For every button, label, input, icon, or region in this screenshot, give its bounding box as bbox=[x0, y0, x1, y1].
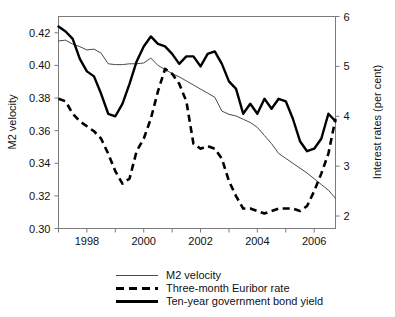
y-tick-label: 0.32 bbox=[29, 190, 50, 202]
legend-label-m2-velocity: M2 velocity bbox=[166, 269, 222, 281]
x-tick-label: 2006 bbox=[302, 235, 326, 247]
y-tick-label: 0.38 bbox=[29, 92, 50, 104]
legend-label-euribor: Three-month Euribor rate bbox=[166, 282, 290, 294]
y2-tick-label: 3 bbox=[344, 160, 350, 172]
line-chart: 0.300.320.340.360.380.400.42 23456 19982… bbox=[0, 0, 395, 317]
x-tick-label: 1998 bbox=[75, 235, 99, 247]
y-tick-label: 0.42 bbox=[29, 27, 50, 39]
y-tick-label: 0.36 bbox=[29, 125, 50, 137]
x-tick-label: 2002 bbox=[188, 235, 212, 247]
chart-figure: 0.300.320.340.360.380.400.42 23456 19982… bbox=[0, 0, 395, 317]
x-tick-label: 2004 bbox=[245, 235, 269, 247]
y-axis-title: M2 velocity bbox=[6, 94, 18, 150]
y2-axis-title: Interest rates (per cent) bbox=[371, 65, 383, 179]
x-tick-label: 2000 bbox=[131, 235, 155, 247]
y2-tick-label: 4 bbox=[344, 110, 350, 122]
y2-tick-label: 6 bbox=[344, 11, 350, 23]
legend-label-bond-yield: Ten-year government bond yield bbox=[166, 295, 323, 307]
y2-tick-label: 5 bbox=[344, 60, 350, 72]
y-tick-label: 0.30 bbox=[29, 223, 50, 235]
y-tick-label: 0.40 bbox=[29, 59, 50, 71]
y-tick-label: 0.34 bbox=[29, 157, 50, 169]
y2-tick-label: 2 bbox=[344, 210, 350, 222]
